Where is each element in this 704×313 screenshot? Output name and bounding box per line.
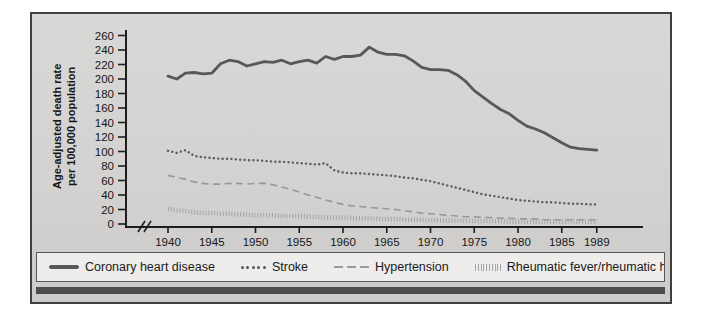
- y-axis-title-line2: per 100,000 population: [65, 63, 79, 188]
- series-line-coronary-heart-disease: [168, 47, 597, 150]
- x-tick-label: 1975: [461, 236, 487, 248]
- x-tick-label: 1960: [330, 236, 356, 248]
- y-tick-label: 240: [95, 44, 114, 56]
- y-tick-label: 120: [95, 131, 114, 143]
- legend-item-stroke: Stroke: [241, 260, 308, 274]
- x-tick-label: 1989: [584, 236, 610, 248]
- x-tick-label: 1955: [286, 236, 312, 248]
- y-tick-label: 60: [101, 175, 114, 187]
- legend-label-hypertension: Hypertension: [375, 260, 449, 274]
- legend: Coronary heart diseaseStrokeHypertension…: [36, 252, 665, 282]
- hypertension-line-swatch: [334, 266, 369, 268]
- legend-item-coronary-heart-disease: Coronary heart disease: [49, 260, 215, 274]
- bottom-accent-bar: [36, 287, 665, 294]
- chart-frame: 0204060801001201401601802002202402601940…: [30, 12, 672, 304]
- y-tick-label: 260: [95, 30, 114, 42]
- y-tick-label: 100: [95, 146, 114, 158]
- x-tick-label: 1985: [549, 236, 575, 248]
- y-tick-label: 0: [108, 218, 114, 230]
- legend-item-hypertension: Hypertension: [334, 260, 449, 274]
- x-tick-label: 1980: [505, 236, 531, 248]
- series-line-rheumatic-fever-rheumatic-heart-disease: [168, 209, 597, 222]
- y-axis-title: Age-adjusted death rate per 100,000 popu…: [36, 26, 94, 226]
- x-tick-label: 1950: [243, 236, 269, 248]
- y-tick-label: 40: [101, 189, 114, 201]
- legend-label-rheumatic-fever-rheumatic-heart-disease: Rheumatic fever/rheumatic heart disease: [507, 260, 665, 274]
- stroke-line-swatch: [241, 266, 266, 269]
- y-tick-label: 160: [95, 102, 114, 114]
- coronary-heart-disease-line-swatch: [49, 265, 79, 269]
- x-tick-label: 1945: [199, 236, 225, 248]
- series-line-stroke: [168, 150, 597, 204]
- legend-item-rheumatic-fever-rheumatic-heart-disease: Rheumatic fever/rheumatic heart disease: [475, 260, 665, 274]
- y-axis-title-text: Age-adjusted death rate per 100,000 popu…: [51, 63, 80, 188]
- legend-label-stroke: Stroke: [272, 260, 308, 274]
- x-tick-label: 1940: [155, 236, 181, 248]
- legend-label-coronary-heart-disease: Coronary heart disease: [85, 260, 215, 274]
- y-tick-label: 200: [95, 73, 114, 85]
- x-tick-label: 1970: [418, 236, 444, 248]
- y-tick-label: 80: [101, 160, 114, 172]
- y-tick-label: 180: [95, 88, 114, 100]
- y-axis-title-line1: Age-adjusted death rate: [51, 63, 65, 188]
- x-tick-label: 1965: [374, 236, 400, 248]
- y-tick-label: 140: [95, 117, 114, 129]
- rheumatic-fever-rheumatic-heart-disease-line-swatch: [475, 264, 501, 271]
- y-tick-label: 220: [95, 59, 114, 71]
- y-tick-label: 20: [101, 204, 114, 216]
